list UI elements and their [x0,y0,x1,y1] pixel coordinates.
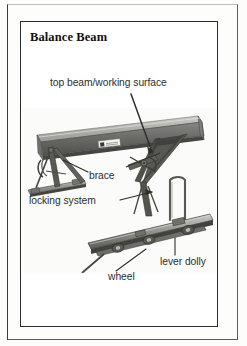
callout-label-lever-dolly: lever dolly [160,257,206,268]
callout-label-locking-system: locking system [29,196,96,207]
figure-title: Balance Beam [30,30,107,45]
callout-label-brace: brace [89,171,115,182]
balance-beam-photograph [22,108,216,273]
callout-label-wheel: wheel [108,272,135,283]
figure-page: Balance Beam [0,0,247,346]
callout-label-top-beam: top beam/working surface [50,78,167,89]
